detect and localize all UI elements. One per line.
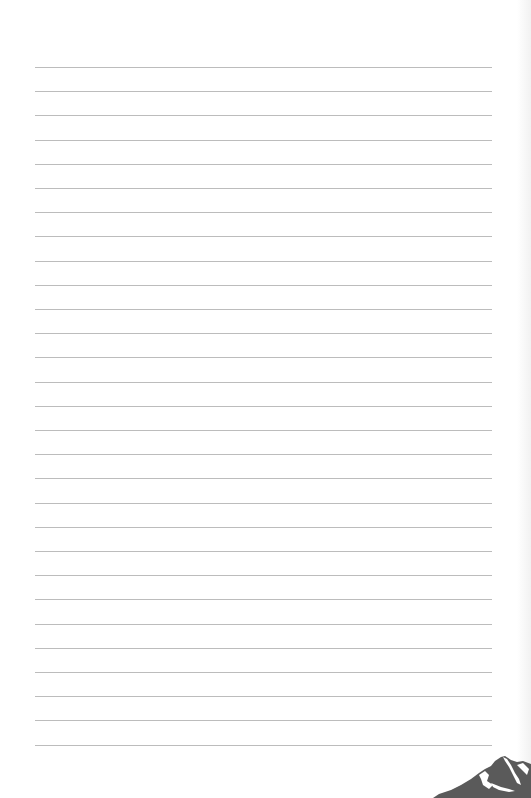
ruled-line — [35, 309, 492, 310]
ruled-line — [35, 745, 492, 746]
ruled-line — [35, 527, 492, 528]
ruled-line — [35, 164, 492, 165]
ruled-lines — [0, 0, 531, 798]
ruled-line — [35, 503, 492, 504]
ruled-line — [35, 357, 492, 358]
ruled-line — [35, 333, 492, 334]
ruled-line — [35, 478, 492, 479]
ruled-line — [35, 236, 492, 237]
ruled-line — [35, 406, 492, 407]
ruled-line — [35, 188, 492, 189]
ruled-line — [35, 551, 492, 552]
ruled-line — [35, 599, 492, 600]
ruled-line — [35, 430, 492, 431]
mountain-icon — [425, 745, 531, 798]
ruled-line — [35, 212, 492, 213]
ruled-line — [35, 696, 492, 697]
ruled-line — [35, 140, 492, 141]
ruled-line — [35, 285, 492, 286]
ruled-line — [35, 382, 492, 383]
ruled-line — [35, 115, 492, 116]
ruled-line — [35, 454, 492, 455]
ruled-line — [35, 648, 492, 649]
ruled-line — [35, 261, 492, 262]
ruled-line — [35, 575, 492, 576]
ruled-line — [35, 672, 492, 673]
ruled-line — [35, 720, 492, 721]
ruled-line — [35, 67, 492, 68]
ruled-line — [35, 624, 492, 625]
notebook-page — [0, 0, 531, 798]
ruled-line — [35, 91, 492, 92]
